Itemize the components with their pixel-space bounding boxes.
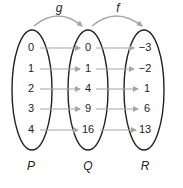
set-q-value: 0 <box>78 42 98 53</box>
set-p-value: 2 <box>21 83 41 94</box>
function-f-arc-arrow <box>92 16 142 26</box>
set-r-value: 6 <box>137 103 157 114</box>
function-g-label: g <box>51 2 67 14</box>
set-r-value: −3 <box>135 42 155 53</box>
set-p-value: 1 <box>21 63 41 74</box>
set-p-value: 0 <box>21 42 41 53</box>
g-mapping-arrows <box>40 48 80 130</box>
set-r-value: 1 <box>137 83 157 94</box>
set-p-value: 4 <box>21 124 41 135</box>
set-q-label: Q <box>78 160 98 172</box>
f-mapping-arrows <box>96 48 138 130</box>
set-q-value: 16 <box>78 124 98 135</box>
set-p-label: P <box>21 160 41 172</box>
set-r-value: 13 <box>135 124 155 135</box>
set-r-label: R <box>135 160 155 172</box>
set-p-value: 3 <box>21 103 41 114</box>
set-r-value: −2 <box>135 63 155 74</box>
set-q-value: 1 <box>78 63 98 74</box>
function-g-arc-arrow <box>34 16 82 26</box>
set-q-value: 4 <box>78 83 98 94</box>
set-q-value: 9 <box>78 103 98 114</box>
function-f-label: f <box>110 2 126 14</box>
